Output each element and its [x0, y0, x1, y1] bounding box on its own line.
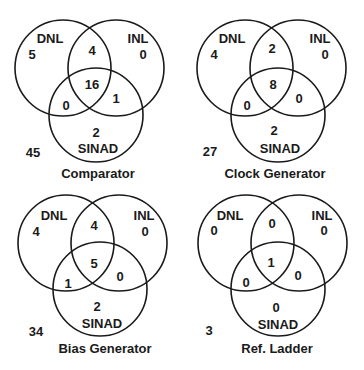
sinad-label: SINAD [258, 318, 298, 331]
diagram-title: Bias Generator [58, 342, 151, 355]
region-dnl-only: 0 [210, 224, 217, 237]
region-inl-only: 0 [141, 225, 148, 238]
region-outside: 27 [203, 145, 217, 158]
region-inl-only: 0 [320, 224, 327, 237]
dnl-label: DNL [37, 32, 64, 45]
region-dnl-inl: 4 [90, 219, 97, 232]
region-all-three: 5 [90, 257, 97, 270]
region-all-three: 1 [267, 256, 274, 269]
region-inl-only: 0 [139, 48, 146, 61]
region-dnl-only: 4 [210, 48, 217, 61]
region-dnl-sinad: 1 [64, 277, 71, 290]
inl-label: INL [312, 209, 333, 222]
region-inl-only: 0 [321, 48, 328, 61]
region-dnl-sinad: 0 [243, 99, 250, 112]
dnl-label: DNL [41, 209, 68, 222]
dnl-label: DNL [217, 209, 244, 222]
inl-label: INL [128, 32, 149, 45]
sinad-label: SINAD [78, 142, 118, 155]
region-dnl-inl: 0 [268, 217, 275, 230]
region-dnl-inl: 2 [268, 42, 275, 55]
venn-diagram-clock-generator: DNL INL SINAD 4 0 2 8 0 0 2 27 Clock Gen… [182, 0, 364, 185]
region-sinad-only: 2 [93, 300, 100, 313]
dnl-label: DNL [219, 32, 246, 45]
region-sinad-only: 2 [270, 124, 277, 137]
sinad-label: SINAD [260, 142, 300, 155]
region-dnl-sinad: 0 [242, 276, 249, 289]
region-all-three: 8 [269, 78, 276, 91]
region-dnl-inl: 4 [88, 44, 95, 57]
region-outside: 45 [26, 146, 40, 159]
venn-diagram-ref-ladder: DNL INL SINAD 0 0 0 1 0 0 0 3 Ref. Ladde… [182, 185, 364, 370]
region-sinad-only: 2 [92, 126, 99, 139]
region-dnl-only: 4 [32, 225, 39, 238]
inl-label: INL [134, 209, 155, 222]
venn-diagram-comparator: DNL INL SINAD 5 0 4 16 0 1 2 45 Comparat… [0, 0, 182, 185]
region-outside: 3 [205, 324, 212, 337]
region-dnl-only: 5 [28, 48, 35, 61]
region-inl-sinad: 0 [116, 270, 123, 283]
region-all-three: 16 [85, 78, 99, 91]
diagram-title: Ref. Ladder [241, 342, 313, 355]
sinad-label: SINAD [82, 317, 122, 330]
diagram-title: Comparator [61, 167, 135, 180]
inl-label: INL [310, 32, 331, 45]
region-outside: 34 [29, 325, 43, 338]
region-sinad-only: 0 [272, 301, 279, 314]
region-inl-sinad: 1 [112, 92, 119, 105]
region-inl-sinad: 0 [295, 92, 302, 105]
venn-diagram-bias-generator: DNL INL SINAD 4 0 4 5 1 0 2 34 Bias Gene… [0, 185, 182, 370]
diagram-title: Clock Generator [224, 167, 325, 180]
region-dnl-sinad: 0 [62, 99, 69, 112]
region-inl-sinad: 0 [294, 269, 301, 282]
